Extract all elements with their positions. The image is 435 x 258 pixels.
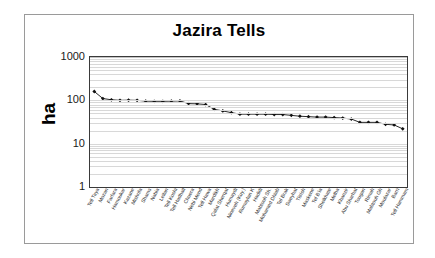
gridline [90,102,407,103]
chart-page: Jazira Tells ha 1101001000 Tell TayaMoza… [0,0,435,258]
gridline [90,80,407,81]
gridline [90,144,407,145]
x-axis-tick-labels: Tell TayaMozanFarfaraHamoukarKazaneMishr… [89,187,406,255]
gridline [90,110,407,111]
gridline [90,166,407,167]
gridline [90,61,407,62]
gridline [90,161,407,162]
gridline [90,57,407,58]
gridline [90,64,407,65]
gridline [90,100,407,101]
gridline [90,105,407,106]
gridline [90,123,407,124]
chart-title: Jazira Tells [25,21,413,41]
gridline [90,67,407,68]
chart-frame: Jazira Tells ha 1101001000 Tell TayaMoza… [24,14,414,244]
gridline [90,107,407,108]
y-tick-label: 1000 [43,51,85,61]
gridline [90,131,407,132]
data-series-line [90,57,407,187]
gridline [90,118,407,119]
y-axis-tick-labels: 1101001000 [39,56,85,186]
y-tick-label: 10 [43,138,85,148]
gridline [90,74,407,75]
gridline [90,148,407,149]
gridline [90,113,407,114]
gridline [90,70,407,71]
gridline [90,153,407,154]
gridline [90,157,407,158]
gridline [90,87,407,88]
y-tick-label: 1 [43,181,85,191]
gridline [90,150,407,151]
y-tick-label: 100 [43,94,85,104]
gridline [90,146,407,147]
gridline [90,59,407,60]
